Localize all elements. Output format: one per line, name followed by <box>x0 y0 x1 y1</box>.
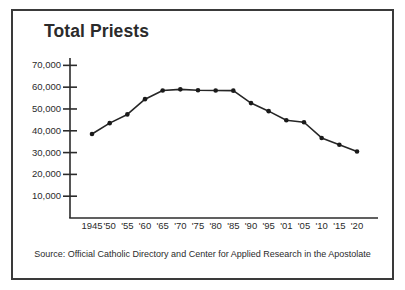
data-point-markers <box>90 87 360 154</box>
data-point-marker <box>107 121 112 126</box>
data-point-marker <box>125 112 130 117</box>
x-axis-tick-labels: 1945'50'55'60'65'70'75'80'85'90'95'01'05… <box>13 221 392 241</box>
x-tick-label: '01 <box>280 221 292 231</box>
x-tick-label: '85 <box>227 221 239 231</box>
data-point-marker <box>231 88 236 93</box>
x-tick-label: '10 <box>315 221 327 231</box>
data-point-marker <box>213 88 218 93</box>
chart-axes <box>69 58 378 218</box>
x-tick-label: '75 <box>192 221 204 231</box>
x-tick-label: '15 <box>333 221 345 231</box>
x-tick-label: '20 <box>351 221 363 231</box>
data-point-marker <box>178 87 183 92</box>
x-tick-label: '90 <box>245 221 257 231</box>
data-point-marker <box>160 88 165 93</box>
data-point-marker <box>337 142 342 147</box>
data-point-marker <box>196 88 201 93</box>
plot-area: 10,00020,00030,00040,00050,00060,00070,0… <box>13 11 392 278</box>
data-line-total-priests <box>92 89 357 151</box>
x-tick-label: '65 <box>156 221 168 231</box>
chart-figure-frame: Total Priests 10,00020,00030,00040,00050… <box>11 9 394 280</box>
x-tick-label: '80 <box>209 221 221 231</box>
x-tick-label: '95 <box>262 221 274 231</box>
source-note: Source: Official Catholic Directory and … <box>13 249 392 259</box>
x-tick-label: '05 <box>298 221 310 231</box>
x-tick-label: '70 <box>174 221 186 231</box>
data-point-marker <box>319 136 324 141</box>
data-point-marker <box>284 118 289 123</box>
data-point-marker <box>143 97 148 102</box>
data-point-marker <box>266 109 271 114</box>
data-point-marker <box>302 120 307 125</box>
data-point-marker <box>355 149 360 154</box>
data-point-marker <box>90 132 95 137</box>
x-tick-label: '55 <box>121 221 133 231</box>
data-point-marker <box>249 101 254 106</box>
x-tick-label: '60 <box>139 221 151 231</box>
x-tick-label: '50 <box>103 221 115 231</box>
x-tick-label: 1945 <box>81 221 102 231</box>
